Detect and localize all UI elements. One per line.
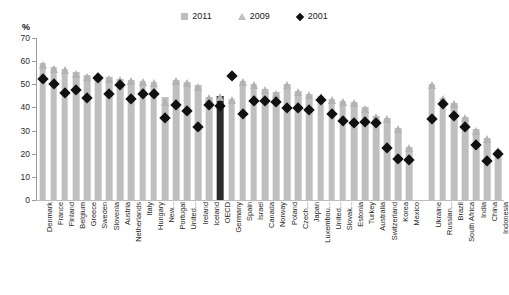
chart-column[interactable] <box>126 38 137 200</box>
chart-column[interactable] <box>382 38 393 200</box>
chart-column[interactable] <box>393 38 404 200</box>
chart-column[interactable] <box>93 38 104 200</box>
chart-column[interactable] <box>237 38 248 200</box>
marker-2009[interactable] <box>428 81 436 89</box>
chart-column[interactable] <box>404 38 415 200</box>
chart-column[interactable] <box>70 38 81 200</box>
marker-2009[interactable] <box>305 91 313 99</box>
chart-column[interactable] <box>48 38 59 200</box>
chart-column[interactable] <box>59 38 70 200</box>
chart-column[interactable] <box>170 38 181 200</box>
chart-column[interactable] <box>437 38 448 200</box>
chart-column[interactable] <box>348 38 359 200</box>
chart-container: 2011 2009 2001 % 010203040506070 Denmark… <box>0 0 509 295</box>
marker-2009[interactable] <box>127 77 135 85</box>
bar-2011[interactable] <box>373 116 380 200</box>
bar-2011[interactable] <box>239 81 246 200</box>
marker-2009[interactable] <box>450 100 458 108</box>
marker-2009[interactable] <box>239 78 247 86</box>
marker-2009[interactable] <box>105 75 113 83</box>
marker-2009[interactable] <box>361 105 369 113</box>
chart-column[interactable] <box>248 38 259 200</box>
marker-2009[interactable] <box>383 115 391 123</box>
diamond-marker-icon <box>295 12 303 20</box>
bar-2011[interactable] <box>206 97 213 200</box>
bar-2011[interactable] <box>117 79 124 201</box>
marker-2009[interactable] <box>150 79 158 87</box>
chart-column[interactable] <box>104 38 115 200</box>
chart-column[interactable] <box>460 38 471 200</box>
chart-column[interactable] <box>115 38 126 200</box>
chart-column[interactable] <box>415 38 426 200</box>
chart-column[interactable] <box>448 38 459 200</box>
chart-column[interactable] <box>482 38 493 200</box>
x-tick-label: Finland <box>68 202 75 226</box>
chart-column[interactable] <box>315 38 326 200</box>
chart-column[interactable] <box>226 38 237 200</box>
marker-2009[interactable] <box>250 81 258 89</box>
marker-2009[interactable] <box>350 99 358 107</box>
marker-2001[interactable] <box>226 70 237 81</box>
y-tick-mark <box>32 200 36 201</box>
marker-2009[interactable] <box>139 78 147 86</box>
bar-2011[interactable] <box>428 84 435 200</box>
chart-column[interactable] <box>282 38 293 200</box>
chart-column[interactable] <box>137 38 148 200</box>
marker-2009[interactable] <box>183 79 191 87</box>
bar-2011[interactable] <box>440 98 447 200</box>
chart-column[interactable] <box>471 38 482 200</box>
x-axis-labels: DenmarkFranceFinlandBelgiumGreeceSwedenS… <box>37 202 504 294</box>
bar-2011[interactable] <box>395 128 402 200</box>
marker-2009[interactable] <box>283 81 291 89</box>
marker-2009[interactable] <box>228 96 236 104</box>
chart-column[interactable] <box>326 38 337 200</box>
chart-column[interactable] <box>148 38 159 200</box>
marker-2009[interactable] <box>161 98 169 106</box>
chart-column[interactable] <box>359 38 370 200</box>
marker-2009[interactable] <box>194 83 202 91</box>
chart-column[interactable] <box>304 38 315 200</box>
chart-column[interactable] <box>493 38 504 200</box>
marker-2009[interactable] <box>294 88 302 96</box>
bar-2011[interactable] <box>173 80 180 200</box>
marker-2009[interactable] <box>72 70 80 78</box>
chart-column[interactable] <box>371 38 382 200</box>
marker-2009[interactable] <box>483 135 491 143</box>
marker-2009[interactable] <box>172 77 180 85</box>
marker-2009[interactable] <box>261 86 269 94</box>
bar-2011[interactable] <box>95 76 102 200</box>
marker-2009[interactable] <box>50 65 58 73</box>
chart-column[interactable] <box>182 38 193 200</box>
chart-column[interactable] <box>215 38 226 200</box>
chart-column[interactable] <box>37 38 48 200</box>
marker-2009[interactable] <box>405 144 413 152</box>
x-tick-label: Brazil <box>457 202 464 220</box>
bar-2011[interactable] <box>195 85 202 200</box>
marker-2009[interactable] <box>394 125 402 133</box>
chart-column[interactable] <box>193 38 204 200</box>
marker-2009[interactable] <box>39 61 47 69</box>
marker-2009[interactable] <box>61 66 69 74</box>
bar-2011[interactable] <box>484 138 491 200</box>
chart-column[interactable] <box>426 38 437 200</box>
x-tick-label: Ukraine <box>435 202 442 227</box>
chart-column[interactable] <box>293 38 304 200</box>
bar-2011[interactable] <box>384 118 391 200</box>
chart-column[interactable] <box>159 38 170 200</box>
marker-2009[interactable] <box>339 98 347 106</box>
chart-column[interactable] <box>81 38 92 200</box>
chart-column[interactable] <box>337 38 348 200</box>
marker-2009[interactable] <box>472 127 480 135</box>
marker-2009[interactable] <box>83 73 91 81</box>
bar-2011[interactable] <box>228 99 235 200</box>
marker-2009[interactable] <box>328 96 336 104</box>
chart-column[interactable] <box>204 38 215 200</box>
chart-column[interactable] <box>271 38 282 200</box>
bar-2011[interactable] <box>184 82 191 200</box>
bar-2011[interactable] <box>273 92 280 200</box>
chart-column[interactable] <box>259 38 270 200</box>
bar-2011[interactable] <box>317 96 324 200</box>
bar-2011[interactable] <box>150 82 157 200</box>
bar-2011[interactable] <box>217 96 224 200</box>
x-tick-label: Canada <box>268 202 275 228</box>
